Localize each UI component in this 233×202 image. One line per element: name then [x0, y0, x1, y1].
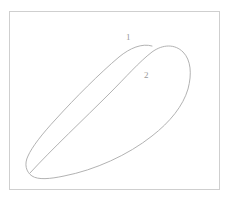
curve-label-2: 2 — [144, 71, 149, 80]
outer-border-rect — [10, 12, 220, 190]
figure-drawing — [0, 0, 233, 202]
airfoil-outline-path — [26, 45, 190, 179]
figure-canvas: 1 2 — [0, 0, 233, 202]
curve-label-1: 1 — [126, 33, 131, 42]
